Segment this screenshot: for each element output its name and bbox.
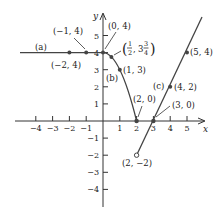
piecewise-function-graph: x y −4 −3 −2 −1 1 2 3 4 5 5 4 3 bbox=[0, 0, 221, 217]
svg-text:): ) bbox=[150, 41, 155, 57]
pointer-3-0 bbox=[156, 106, 170, 117]
svg-text:−3: −3 bbox=[47, 124, 59, 133]
label-m1-4: (−1, 4) bbox=[53, 26, 83, 36]
svg-text:4: 4 bbox=[168, 124, 173, 133]
point-1-3 bbox=[118, 68, 122, 72]
svg-text:−4: −4 bbox=[30, 124, 42, 133]
pointer-m1-4 bbox=[74, 38, 85, 49]
x-tick-labels: −4 −3 −2 −1 1 2 3 4 5 bbox=[30, 124, 190, 133]
svg-text:−1: −1 bbox=[87, 134, 99, 143]
svg-text:5: 5 bbox=[184, 124, 189, 133]
svg-text:−1: −1 bbox=[80, 124, 92, 133]
svg-text:3: 3 bbox=[151, 124, 156, 133]
svg-text:−2: −2 bbox=[87, 151, 99, 160]
label-5-4: (5, 4) bbox=[190, 47, 213, 57]
y-ticks bbox=[103, 36, 108, 190]
point-0-4 bbox=[101, 51, 105, 55]
svg-text:1: 1 bbox=[117, 124, 122, 133]
piece-b-parabola bbox=[103, 53, 137, 121]
label-2-m2: (2, −2) bbox=[122, 158, 152, 168]
open-point-2-m2 bbox=[134, 153, 138, 157]
point-2-0 bbox=[134, 119, 138, 123]
label-0-4: (0, 4) bbox=[108, 21, 131, 31]
point-half-3-3-4 bbox=[109, 55, 113, 59]
svg-text:2: 2 bbox=[134, 124, 139, 133]
svg-text:1: 1 bbox=[94, 100, 99, 109]
svg-text:,: , bbox=[133, 44, 136, 54]
label-half-3-3-4: ( 1 2 , 3 3 4 ) bbox=[122, 40, 155, 57]
label-4-2: (4, 2) bbox=[174, 82, 197, 92]
svg-text:3: 3 bbox=[138, 44, 143, 54]
piece-b-label: (b) bbox=[106, 73, 118, 83]
label-m2-4: (−2, 4) bbox=[51, 60, 81, 70]
y-tick-labels: 5 4 3 2 1 −1 −2 −3 −4 bbox=[87, 32, 99, 195]
svg-text:−4: −4 bbox=[87, 185, 99, 194]
point-m1-4 bbox=[84, 51, 88, 55]
svg-text:3: 3 bbox=[144, 40, 148, 48]
svg-text:−3: −3 bbox=[87, 168, 99, 177]
pointer-0-4 bbox=[105, 32, 116, 49]
piece-a-label: (a) bbox=[35, 42, 47, 52]
point-m2-4 bbox=[67, 51, 71, 55]
pointer-2-0 bbox=[138, 106, 142, 117]
svg-text:2: 2 bbox=[128, 49, 132, 57]
label-2-0: (2, 0) bbox=[133, 94, 156, 104]
svg-text:2: 2 bbox=[94, 83, 99, 92]
svg-text:(: ( bbox=[122, 41, 127, 57]
svg-text:5: 5 bbox=[94, 32, 99, 41]
point-3-0 bbox=[151, 119, 155, 123]
svg-text:1: 1 bbox=[128, 40, 132, 48]
point-4-2 bbox=[168, 85, 172, 89]
point-5-4 bbox=[185, 51, 189, 55]
pointer-half-3-3-4 bbox=[114, 51, 121, 55]
y-axis-label: y bbox=[92, 11, 99, 21]
svg-text:−2: −2 bbox=[64, 124, 76, 133]
svg-text:4: 4 bbox=[144, 49, 148, 57]
x-axis-label: x bbox=[203, 124, 208, 134]
label-3-0: (3, 0) bbox=[172, 100, 195, 110]
label-1-3: (1, 3) bbox=[123, 65, 146, 75]
piece-c-label: (c) bbox=[153, 81, 164, 91]
x-ticks bbox=[36, 116, 187, 121]
svg-text:3: 3 bbox=[94, 66, 99, 75]
